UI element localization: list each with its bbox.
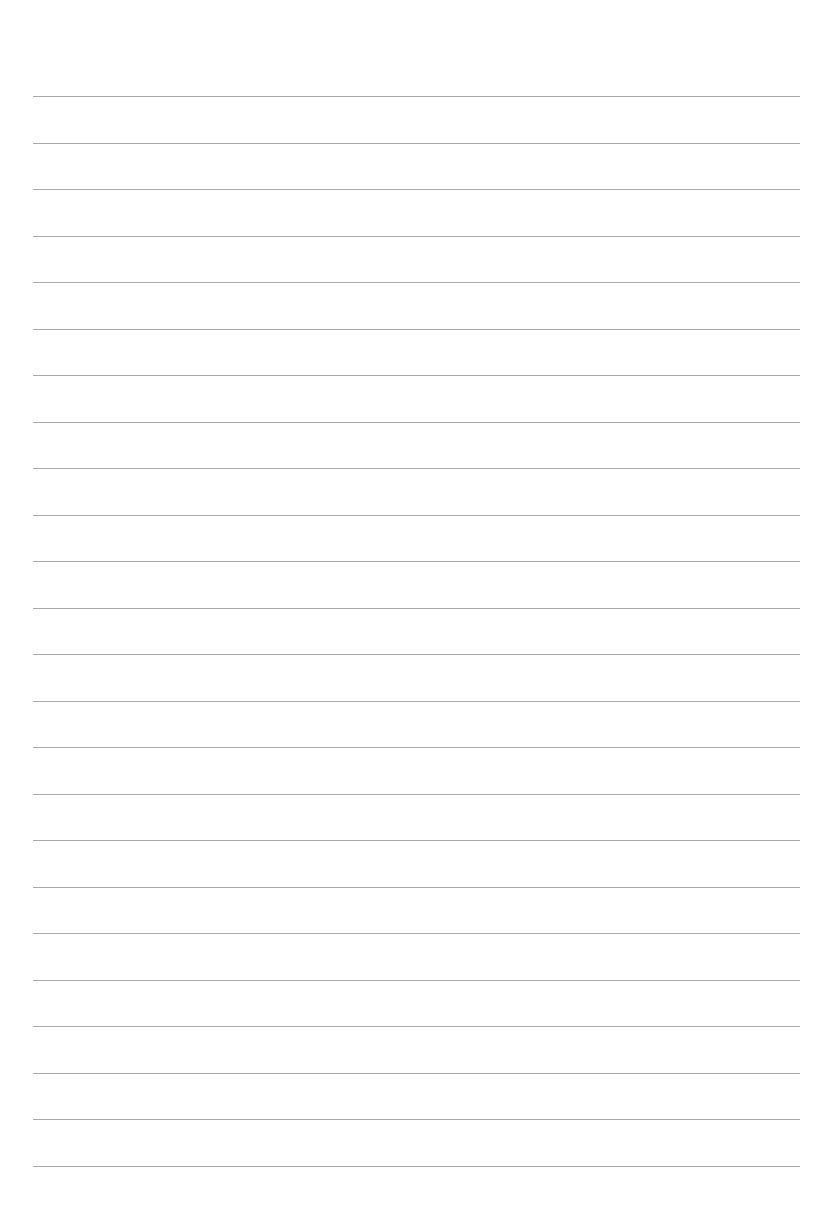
ruled-line	[33, 840, 800, 841]
lined-paper-page	[0, 0, 832, 1217]
ruled-line	[33, 1166, 800, 1167]
ruled-line	[33, 143, 800, 144]
ruled-line	[33, 561, 800, 562]
ruled-line	[33, 189, 800, 190]
ruled-line	[33, 933, 800, 934]
ruled-line	[33, 329, 800, 330]
ruled-line	[33, 654, 800, 655]
ruled-line	[33, 375, 800, 376]
ruled-line	[33, 608, 800, 609]
ruled-line	[33, 701, 800, 702]
ruled-line	[33, 282, 800, 283]
ruled-line	[33, 515, 800, 516]
ruled-line	[33, 1073, 800, 1074]
ruled-line	[33, 96, 800, 97]
ruled-line	[33, 887, 800, 888]
ruled-line	[33, 422, 800, 423]
ruled-line	[33, 1026, 800, 1027]
ruled-line	[33, 236, 800, 237]
ruled-line	[33, 1119, 800, 1120]
ruled-line	[33, 747, 800, 748]
ruled-line	[33, 468, 800, 469]
ruled-line	[33, 980, 800, 981]
ruled-line	[33, 794, 800, 795]
